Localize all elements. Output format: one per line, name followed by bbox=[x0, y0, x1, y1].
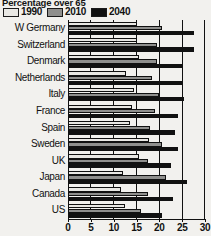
bar-row: W Germany bbox=[0, 20, 211, 37]
bar-group bbox=[68, 169, 211, 186]
x-axis-tick bbox=[137, 219, 138, 222]
bar-group bbox=[68, 103, 211, 120]
bar-group bbox=[68, 153, 211, 170]
x-axis-tick bbox=[182, 219, 183, 222]
x-axis-tick bbox=[91, 219, 92, 222]
bar-2040 bbox=[68, 81, 182, 85]
chart-container: Percentage over 65 199020102040 W German… bbox=[0, 0, 211, 236]
bar-2040 bbox=[68, 47, 194, 51]
x-tick-label: 5 bbox=[88, 222, 93, 233]
bar-row: Netherlands bbox=[0, 70, 211, 87]
bar-group bbox=[68, 120, 211, 137]
bar-2040 bbox=[68, 180, 187, 184]
legend-label: 2010 bbox=[65, 7, 86, 17]
bar-group bbox=[68, 70, 211, 87]
category-label: Spain bbox=[0, 120, 65, 137]
bar-2040 bbox=[68, 130, 175, 134]
x-tick-label: 15 bbox=[131, 222, 142, 233]
category-label: UK bbox=[0, 153, 65, 170]
legend-swatch-icon bbox=[3, 8, 19, 17]
x-axis-tick bbox=[114, 219, 115, 222]
bar-row: Sweden bbox=[0, 136, 211, 153]
category-label: France bbox=[0, 103, 65, 120]
bar-group bbox=[68, 53, 211, 70]
x-axis-tick-labels: 051015202530 bbox=[0, 222, 211, 235]
bar-group bbox=[68, 86, 211, 103]
x-tick-label: 10 bbox=[108, 222, 119, 233]
category-label: Denmark bbox=[0, 53, 65, 70]
bar-row: Denmark bbox=[0, 53, 211, 70]
bar-row: Japan bbox=[0, 169, 211, 186]
bar-2040 bbox=[68, 163, 171, 167]
legend-entry: 2040 bbox=[91, 7, 130, 17]
bar-group bbox=[68, 202, 211, 219]
bar-group bbox=[68, 37, 211, 54]
x-tick-label: 0 bbox=[65, 222, 70, 233]
chart-legend: 199020102040 bbox=[3, 6, 130, 18]
bar-row: Switzerland bbox=[0, 37, 211, 54]
bar-2040 bbox=[68, 197, 173, 201]
bar-2040 bbox=[68, 213, 162, 217]
bar-row: France bbox=[0, 103, 211, 120]
legend-swatch-icon bbox=[47, 8, 63, 17]
bar-2040 bbox=[68, 31, 194, 35]
bar-group bbox=[68, 186, 211, 203]
bar-row: UK bbox=[0, 153, 211, 170]
category-label: Canada bbox=[0, 186, 65, 203]
bar-row: Canada bbox=[0, 186, 211, 203]
bar-rows: W GermanySwitzerlandDenmarkNetherlandsIt… bbox=[0, 20, 211, 219]
x-axis-tick bbox=[68, 219, 69, 222]
category-label: Netherlands bbox=[0, 70, 65, 87]
category-label: Switzerland bbox=[0, 37, 65, 54]
category-label: W Germany bbox=[0, 20, 65, 37]
bar-2040 bbox=[68, 97, 184, 101]
x-tick-label: 25 bbox=[177, 222, 188, 233]
bar-row: Spain bbox=[0, 120, 211, 137]
bar-2040 bbox=[68, 147, 178, 151]
bar-row: US bbox=[0, 202, 211, 219]
legend-label: 2040 bbox=[109, 7, 130, 17]
x-tick-label: 30 bbox=[200, 222, 211, 233]
legend-label: 1990 bbox=[21, 7, 42, 17]
legend-swatch-icon bbox=[91, 8, 107, 17]
category-label: US bbox=[0, 202, 65, 219]
bar-2040 bbox=[68, 64, 182, 68]
x-axis-tick bbox=[205, 219, 206, 222]
bar-group bbox=[68, 20, 211, 37]
bar-group bbox=[68, 136, 211, 153]
legend-entry: 1990 bbox=[3, 7, 42, 17]
category-label: Sweden bbox=[0, 136, 65, 153]
x-axis-tick bbox=[159, 219, 160, 222]
legend-entry: 2010 bbox=[47, 7, 86, 17]
bar-2040 bbox=[68, 114, 178, 118]
x-tick-label: 20 bbox=[154, 222, 165, 233]
bar-row: Italy bbox=[0, 86, 211, 103]
category-label: Italy bbox=[0, 86, 65, 103]
category-label: Japan bbox=[0, 169, 65, 186]
